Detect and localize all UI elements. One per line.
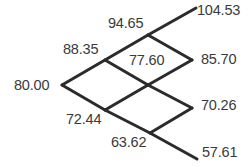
node-label-mid2: 77.60 bbox=[129, 53, 164, 68]
node-label-down2: 63.62 bbox=[111, 135, 146, 150]
node-label-down1: 72.44 bbox=[66, 112, 101, 127]
node-label-up2: 94.65 bbox=[108, 16, 143, 31]
edge-down1-down2 bbox=[105, 110, 150, 133]
edge-down1-mid2 bbox=[105, 85, 148, 110]
node-label-term-udd: 70.26 bbox=[201, 98, 236, 113]
edge-up2-term0 bbox=[148, 8, 196, 35]
edge-root-up1 bbox=[62, 60, 105, 85]
node-label-term-ddd: 57.61 bbox=[202, 145, 237, 160]
node-label-up1: 88.35 bbox=[63, 42, 98, 57]
edge-down2-term2 bbox=[150, 108, 192, 133]
node-label-term-uuu: 104.53 bbox=[197, 3, 240, 18]
binomial-tree-diagram: 80.00 88.35 72.44 94.65 77.60 63.62 104.… bbox=[0, 0, 250, 167]
edge-down2-term3 bbox=[150, 133, 197, 159]
edge-root-down1 bbox=[62, 85, 105, 110]
node-label-term-uud: 85.70 bbox=[201, 52, 236, 67]
node-label-root: 80.00 bbox=[14, 78, 49, 93]
edge-mid2-term2 bbox=[148, 85, 192, 108]
